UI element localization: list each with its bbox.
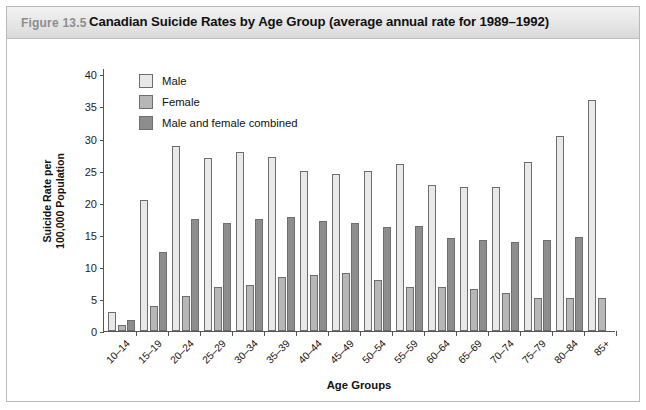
bar-male bbox=[396, 164, 404, 331]
x-tick-label: 60–64 bbox=[424, 338, 452, 366]
x-tick-label: 45–49 bbox=[328, 338, 356, 366]
bar-group bbox=[232, 69, 264, 331]
x-tick-label: 35–39 bbox=[264, 338, 292, 366]
bar-comb bbox=[223, 223, 231, 331]
x-tick-mark bbox=[424, 331, 425, 336]
bar-male bbox=[172, 146, 180, 331]
bar-female bbox=[470, 289, 478, 331]
figure-number: Figure 13.5 bbox=[21, 16, 87, 30]
bar-group bbox=[328, 69, 360, 331]
bar-female bbox=[118, 325, 126, 331]
bar-female bbox=[406, 287, 414, 331]
bar-group bbox=[520, 69, 552, 331]
bar-comb bbox=[415, 226, 423, 331]
x-tick-mark bbox=[456, 331, 457, 336]
bar-group bbox=[552, 69, 584, 331]
x-tick-label: 30–34 bbox=[232, 338, 260, 366]
y-tick-label: 35 bbox=[85, 101, 104, 113]
figure-header: Figure 13.5 Canadian Suicide Rates by Ag… bbox=[7, 7, 639, 39]
x-tick-mark bbox=[584, 331, 585, 336]
x-tick-label: 70–74 bbox=[488, 338, 516, 366]
y-tick-label: 40 bbox=[85, 69, 104, 81]
bar-comb bbox=[287, 217, 295, 331]
x-tick-label: 20–24 bbox=[168, 338, 196, 366]
y-tick-label: 25 bbox=[85, 166, 104, 178]
bar-female bbox=[502, 293, 510, 331]
bar-comb bbox=[575, 237, 583, 331]
figure-container: Figure 13.5 Canadian Suicide Rates by Ag… bbox=[6, 6, 640, 402]
bar-group bbox=[296, 69, 328, 331]
y-tick-label: 5 bbox=[91, 294, 104, 306]
x-tick-label: 40–44 bbox=[296, 338, 324, 366]
x-tick-label: 65–69 bbox=[456, 338, 484, 366]
bar-male bbox=[524, 162, 532, 331]
bar-comb bbox=[383, 227, 391, 331]
bar-female bbox=[534, 298, 542, 331]
x-tick-label: 75–79 bbox=[520, 338, 548, 366]
bar-female bbox=[278, 277, 286, 331]
bar-male bbox=[428, 185, 436, 331]
bar-comb bbox=[479, 240, 487, 331]
y-axis-title-line2: 100,000 Population bbox=[54, 153, 67, 249]
bar-comb bbox=[191, 219, 199, 331]
bar-female bbox=[214, 287, 222, 331]
bar-comb bbox=[159, 252, 167, 331]
bar-group bbox=[200, 69, 232, 331]
x-tick-label: 10–14 bbox=[104, 338, 132, 366]
y-tick-label: 20 bbox=[85, 198, 104, 210]
bar-male bbox=[492, 187, 500, 331]
bar-male bbox=[460, 187, 468, 331]
y-tick-label: 0 bbox=[91, 326, 104, 338]
x-tick-label: 85+ bbox=[592, 338, 612, 358]
bar-female bbox=[150, 306, 158, 331]
x-tick-mark bbox=[136, 331, 137, 336]
bar-male bbox=[236, 152, 244, 331]
bar-female bbox=[438, 287, 446, 331]
bar-male bbox=[204, 158, 212, 331]
x-tick-mark bbox=[168, 331, 169, 336]
bar-male bbox=[364, 171, 372, 331]
bars-layer bbox=[104, 69, 615, 331]
x-tick-mark bbox=[328, 331, 329, 336]
bar-male bbox=[588, 100, 596, 331]
bar-group bbox=[456, 69, 488, 331]
x-tick-mark bbox=[232, 331, 233, 336]
bar-group bbox=[424, 69, 456, 331]
bar-group bbox=[168, 69, 200, 331]
bar-comb bbox=[543, 240, 551, 331]
x-tick-label: 55–59 bbox=[392, 338, 420, 366]
bar-female bbox=[310, 275, 318, 331]
bar-group bbox=[584, 69, 616, 331]
bar-female bbox=[246, 285, 254, 331]
bar-group bbox=[264, 69, 296, 331]
x-tick-label: 80–84 bbox=[552, 338, 580, 366]
y-axis-title-line1: Suicide Rate per bbox=[41, 153, 54, 249]
bar-male bbox=[556, 136, 564, 331]
bar-male bbox=[108, 312, 116, 331]
bar-comb bbox=[255, 219, 263, 331]
x-tick-mark bbox=[616, 331, 617, 336]
bar-comb bbox=[319, 221, 327, 331]
x-tick-label: 50–54 bbox=[360, 338, 388, 366]
y-axis-title: Suicide Rate per 100,000 Population bbox=[37, 69, 71, 332]
bar-male bbox=[332, 174, 340, 331]
x-axis-title: Age Groups bbox=[103, 379, 615, 391]
bar-comb bbox=[351, 223, 359, 331]
bar-comb bbox=[127, 320, 135, 331]
plot-area: 0510152025303540 10–1415–1920–2425–2930–… bbox=[103, 69, 615, 332]
bar-male bbox=[140, 200, 148, 332]
bar-comb bbox=[511, 242, 519, 331]
bar-male bbox=[268, 157, 276, 331]
y-tick-label: 30 bbox=[85, 134, 104, 146]
x-tick-mark bbox=[200, 331, 201, 336]
bar-group bbox=[392, 69, 424, 331]
x-tick-mark bbox=[552, 331, 553, 336]
y-tick-label: 15 bbox=[85, 230, 104, 242]
bar-comb bbox=[447, 238, 455, 331]
y-tick-label: 10 bbox=[85, 262, 104, 274]
x-tick-mark bbox=[264, 331, 265, 336]
x-tick-mark bbox=[488, 331, 489, 336]
x-tick-mark bbox=[392, 331, 393, 336]
bar-female bbox=[342, 273, 350, 331]
bar-group bbox=[360, 69, 392, 331]
